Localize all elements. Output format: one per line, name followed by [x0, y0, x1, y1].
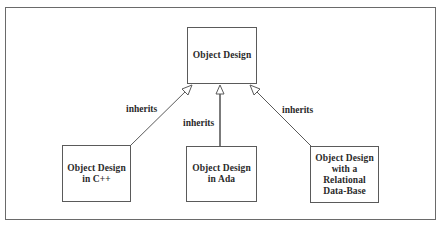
edge-cpp-to-parent: [131, 85, 192, 145]
edge-label-cpp: inherits: [126, 104, 157, 114]
hollow-triangle-arrow-icon: [216, 85, 224, 94]
edge-label-ada: inherits: [183, 118, 214, 128]
child-class-box-cpp: Object Design in C++: [62, 145, 131, 202]
edge-rdb-to-parent: [250, 85, 311, 146]
edge-label-rdb: inherits: [282, 105, 313, 115]
child-class-box-rdb: Object Design with a Relational Data-Bas…: [310, 146, 379, 203]
child-class-label-ada: Object Design in Ada: [192, 163, 251, 185]
parent-class-box: Object Design: [187, 27, 257, 84]
child-class-label-rdb: Object Design with a Relational Data-Bas…: [315, 153, 374, 197]
parent-class-label: Object Design: [193, 50, 252, 61]
edge-ada-to-parent: [216, 85, 224, 146]
child-class-box-ada: Object Design in Ada: [186, 146, 257, 202]
child-class-label-cpp: Object Design in C++: [67, 163, 126, 185]
